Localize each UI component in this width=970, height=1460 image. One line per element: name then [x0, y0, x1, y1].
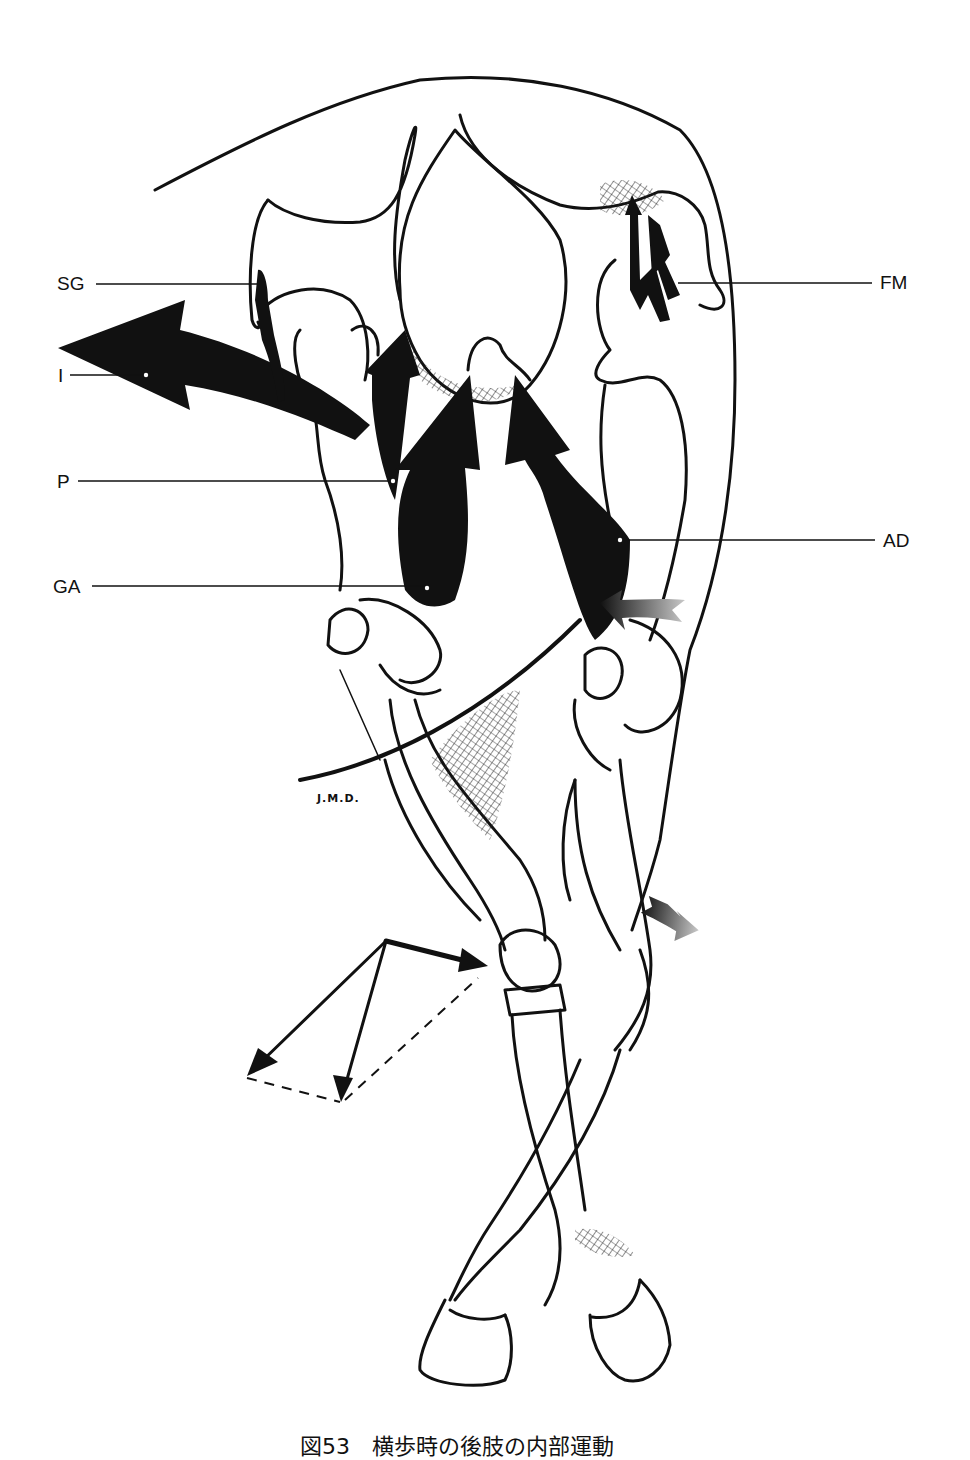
label-GA: GA [53, 577, 80, 596]
vector-resultant [386, 941, 470, 962]
hatched-fetlock [575, 1229, 635, 1257]
label-FM: FM [880, 273, 907, 292]
figure-caption: 図53 横歩時の後肢の内部運動 [300, 1428, 614, 1460]
vector-left [258, 941, 386, 1065]
right-ilium [460, 115, 724, 309]
vector-dash-1 [247, 1078, 340, 1102]
right-tibia [575, 780, 620, 950]
artist-signature: J.M.D. [317, 792, 360, 805]
left-hock [500, 930, 560, 991]
left-patella [328, 609, 368, 653]
arrow-GA [395, 375, 480, 607]
pelvic-outlet [399, 130, 566, 403]
vector-dash-2 [345, 978, 478, 1100]
left-hoof [420, 1300, 512, 1385]
arrow-I [58, 300, 370, 440]
left-cannon [512, 1015, 560, 1305]
label-I: I [58, 366, 63, 385]
label-P: P [57, 472, 70, 491]
label-SG: SG [57, 274, 84, 293]
right-cannon [455, 1050, 620, 1300]
label-AD: AD [883, 531, 909, 550]
hatched-gaskin [430, 690, 520, 840]
left-ilium [268, 127, 416, 300]
right-hoof [590, 1280, 670, 1381]
right-patella [585, 648, 622, 698]
